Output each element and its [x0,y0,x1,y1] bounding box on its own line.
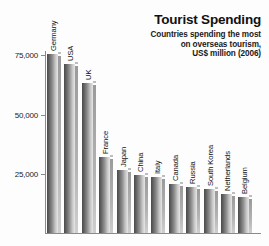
bar-slot[interactable] [221,40,236,233]
bar-front-face [134,175,145,233]
bar-front-face [117,170,128,233]
category-label-france: France [101,131,110,154]
bar-side-face [75,66,78,233]
bar[interactable] [151,177,166,233]
bar-front-face [64,64,75,233]
bar-slot[interactable] [238,40,253,233]
chart-subtitle-line-1: Countries spending the most [133,30,261,40]
bar[interactable] [99,157,114,233]
bar[interactable] [134,175,149,233]
bar-side-face [249,199,252,233]
y-tick-label: 25,000 [15,170,38,179]
bar-slot[interactable] [151,40,166,233]
bar-side-face [232,196,235,233]
y-tick-mark [41,115,46,116]
bar[interactable] [221,194,236,233]
bar-top-face [75,62,78,64]
bar-side-face [93,85,96,233]
y-tick-label: 50,000 [15,110,38,119]
bar-top-face [110,155,113,157]
bar-side-face [197,189,200,233]
bar-side-face [162,179,165,233]
category-label-uk: UK [84,70,93,80]
bar-front-face [82,83,93,233]
tourist-spending-chart: Tourist Spending Countries spending the … [0,0,269,246]
category-label-germany: Germany [49,21,58,52]
bar-side-face [145,177,148,233]
bar-top-face [128,168,131,170]
bar-front-face [47,54,58,233]
bar-series: GermanyUSAUKFranceJapanChinaItalyCanadaR… [47,40,261,233]
bar[interactable] [186,187,201,233]
bar-top-face [58,52,61,54]
plot-area: 25,00050,00075,000 GermanyUSAUKFranceJap… [45,40,261,234]
y-tick-mark [41,55,46,56]
category-label-japan: Japan [119,147,128,167]
y-tick-mark [41,174,46,175]
category-label-belgium: Belgium [240,168,249,195]
category-label-china: China [136,152,145,171]
bar-front-face [99,157,110,233]
chart-title: Tourist Spending [133,12,261,27]
bar-slot[interactable] [64,40,79,233]
bar-front-face [221,194,232,233]
bar-slot[interactable] [117,40,132,233]
category-label-italy: Italy [153,161,162,174]
bar[interactable] [117,170,132,233]
bar-top-face [215,187,218,189]
bar-front-face [186,187,197,233]
bar-top-face [249,195,252,197]
category-label-south-korea: South Korea [206,145,215,186]
bar-side-face [128,172,131,233]
bar-top-face [180,182,183,184]
bar-top-face [145,173,148,175]
category-label-canada: Canada [171,155,180,181]
bar-front-face [151,177,162,233]
bar[interactable] [64,64,79,233]
bar-side-face [110,159,113,233]
bar-top-face [197,185,200,187]
category-label-usa: USA [66,46,75,61]
bar-slot[interactable] [186,40,201,233]
bar-front-face [238,197,249,233]
bar-slot[interactable] [47,40,62,233]
bar-front-face [204,189,215,233]
bar-top-face [162,175,165,177]
bar[interactable] [169,184,184,233]
bar-front-face [169,184,180,233]
x-axis-line [45,233,261,234]
bar-side-face [180,186,183,233]
bar-slot[interactable] [204,40,219,233]
category-label-netherlands: Netherlands [223,151,232,191]
bar-slot[interactable] [169,40,184,233]
bar-side-face [58,56,61,233]
y-tick-label: 75,000 [15,51,38,60]
bar[interactable] [47,54,62,233]
bar-top-face [93,81,96,83]
bar[interactable] [82,83,97,233]
bar-top-face [232,192,235,194]
bar-side-face [215,191,218,233]
bar[interactable] [238,197,253,233]
bar-slot[interactable] [134,40,149,233]
bar[interactable] [204,189,219,233]
y-axis-line [45,51,46,234]
category-label-russia: Russia [188,161,197,184]
